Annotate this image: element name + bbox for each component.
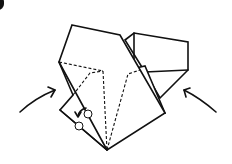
origami-diagram: [0, 0, 232, 164]
pivot-point-upper-icon: [84, 110, 92, 118]
push-arrow-left-icon: [20, 87, 55, 112]
push-arrow-right-icon: [184, 88, 216, 112]
pivot-point-lower-icon: [75, 122, 83, 130]
